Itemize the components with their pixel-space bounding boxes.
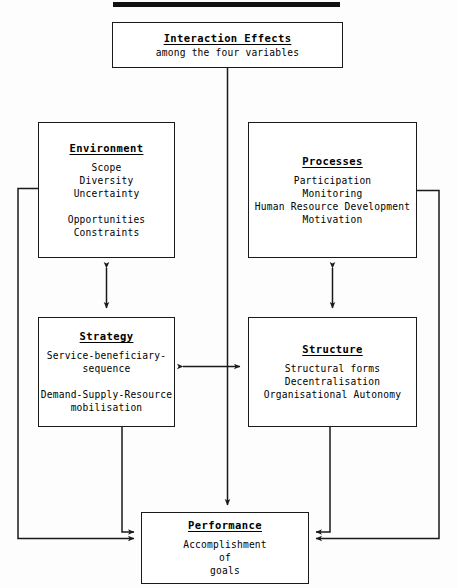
node-performance-body: Accomplishment of goals (183, 538, 267, 577)
connector-structure-performance (316, 427, 330, 532)
node-line: Constraints (74, 226, 140, 239)
node-line: Service-beneficiary- (47, 349, 167, 362)
connector-layer (0, 0, 458, 588)
node-strategy-body: Service-beneficiary- sequence Demand-Sup… (41, 349, 172, 414)
node-structure-title: Structure (302, 343, 363, 355)
node-line: Participation (294, 174, 372, 187)
node-structure[interactable]: Structure Structural forms Decentralisat… (248, 317, 417, 427)
node-line: Accomplishment (183, 538, 267, 551)
node-line: among the four variables (156, 46, 299, 59)
node-interaction-effects-body: among the four variables (156, 46, 299, 59)
node-interaction-effects[interactable]: Interaction Effects among the four varia… (112, 22, 343, 68)
node-environment[interactable]: Environment Scope Diversity Uncertainty … (38, 122, 175, 258)
node-environment-body: Scope Diversity Uncertainty Opportunitie… (68, 161, 146, 239)
node-line: Diversity (80, 174, 134, 187)
node-performance-title: Performance (188, 519, 262, 531)
node-structure-body: Structural forms Decentralisation Organi… (264, 362, 401, 401)
node-processes[interactable]: Processes Participation Monitoring Human… (248, 122, 417, 258)
node-line: Demand-Supply-Resource (41, 388, 172, 401)
node-line: mobilisation (71, 401, 143, 414)
node-line: of (219, 551, 231, 564)
diagram-canvas: Interaction Effects among the four varia… (0, 0, 458, 588)
node-line: Decentralisation (285, 375, 381, 388)
node-line: Uncertainty (74, 187, 140, 200)
node-strategy[interactable]: Strategy Service-beneficiary- sequence D… (38, 317, 175, 427)
node-line: goals (210, 564, 240, 577)
node-environment-title: Environment (70, 142, 144, 154)
node-interaction-effects-title: Interaction Effects (164, 32, 292, 44)
node-strategy-title: Strategy (80, 330, 134, 342)
node-line: Structural forms (285, 362, 381, 375)
node-line: Motivation (303, 213, 363, 226)
node-performance[interactable]: Performance Accomplishment of goals (141, 512, 309, 584)
node-processes-title: Processes (302, 155, 363, 167)
node-line: Opportunities (68, 213, 146, 226)
connector-strategy-performance (122, 427, 134, 532)
node-line: Scope (92, 161, 122, 174)
node-line: sequence (83, 362, 131, 375)
node-line: Human Resource Development (255, 200, 410, 213)
node-line: Monitoring (303, 187, 363, 200)
node-processes-body: Participation Monitoring Human Resource … (255, 174, 410, 226)
node-line: Organisational Autonomy (264, 388, 401, 401)
